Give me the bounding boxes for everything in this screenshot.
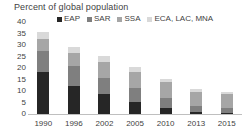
- stacked-bar[interactable]: [68, 47, 80, 114]
- y-axis-tick-label: 25: [4, 53, 26, 61]
- bar-segment: [221, 113, 233, 114]
- bar-segment: [37, 72, 49, 114]
- bar-slot: [120, 22, 151, 114]
- bar-segment: [37, 51, 49, 72]
- stacked-bar[interactable]: [190, 89, 202, 114]
- bar-segment: [68, 53, 80, 66]
- bar-segment: [190, 92, 202, 106]
- bar-slot: [59, 22, 90, 114]
- bar-slot: [211, 22, 242, 114]
- y-axis-tick-label: 15: [4, 76, 26, 84]
- x-axis-tick-label: 2013: [181, 119, 212, 133]
- bar-segment: [190, 112, 202, 114]
- bar-segment: [98, 62, 110, 78]
- x-axis-tick-label: 1990: [28, 119, 59, 133]
- stacked-bar[interactable]: [129, 67, 141, 114]
- y-axis-tick-label: 20: [4, 64, 26, 72]
- bar-slot: [150, 22, 181, 114]
- chart-container: Percent of global population EAPSARSSAEC…: [0, 0, 248, 138]
- bar-slot: [181, 22, 212, 114]
- bar-slot: [28, 22, 59, 114]
- y-axis-ticks: 4035302520151050: [0, 0, 26, 138]
- bar-segment: [98, 94, 110, 114]
- bar-segment: [190, 106, 202, 113]
- bar-segment: [160, 108, 172, 114]
- bar-segment: [160, 98, 172, 108]
- bar-segment: [160, 82, 172, 97]
- stacked-bar[interactable]: [221, 92, 233, 114]
- y-axis-tick-label: 30: [4, 41, 26, 49]
- x-axis-labels: 1990199620022005201020132015: [28, 119, 242, 133]
- y-axis-tick-label: 10: [4, 87, 26, 95]
- bar-segment: [68, 66, 80, 86]
- bar-segment: [68, 86, 80, 114]
- bar-segment: [129, 88, 141, 102]
- y-axis-tick-label: 35: [4, 30, 26, 38]
- y-axis-tick-label: 40: [4, 18, 26, 26]
- bar-segment: [37, 39, 49, 51]
- stacked-bar[interactable]: [98, 56, 110, 114]
- x-axis-tick-label: 2010: [150, 119, 181, 133]
- y-axis-tick-label: 5: [4, 99, 26, 107]
- bar-segment: [129, 72, 141, 88]
- bar-slot: [89, 22, 120, 114]
- plot-area: 4035302520151050 19901996200220052010201…: [0, 0, 248, 138]
- stacked-bar[interactable]: [37, 32, 49, 114]
- bar-segment: [221, 94, 233, 107]
- x-axis-tick-label: 2005: [120, 119, 151, 133]
- bar-segment: [98, 78, 110, 94]
- bar-segment: [37, 32, 49, 39]
- y-axis-tick-label: 0: [4, 110, 26, 118]
- stacked-bar[interactable]: [160, 79, 172, 114]
- bar-group: [28, 22, 242, 114]
- x-axis-tick-label: 1996: [59, 119, 90, 133]
- x-axis-tick-label: 2015: [211, 119, 242, 133]
- bar-segment: [129, 102, 141, 114]
- x-axis-line: [28, 114, 242, 115]
- x-axis-tick-label: 2002: [89, 119, 120, 133]
